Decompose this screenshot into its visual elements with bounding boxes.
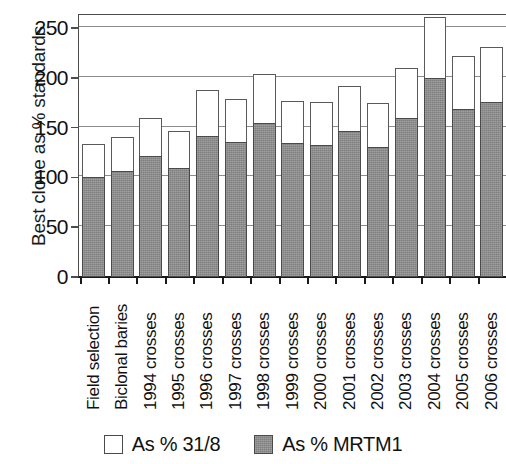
table-row[interactable] bbox=[452, 14, 475, 277]
x-tick bbox=[279, 277, 281, 284]
bar-segment-as-pct-mrtm1[interactable] bbox=[111, 171, 134, 277]
x-tick-label: 2001 crosses bbox=[340, 312, 360, 410]
x-tick-label-wrap: 1995 crosses bbox=[165, 286, 193, 410]
y-tick-label-0: 0 bbox=[0, 265, 68, 289]
x-tick-label: 1995 crosses bbox=[169, 312, 189, 410]
bar-segment-as-pct-mrtm1[interactable] bbox=[367, 147, 390, 277]
x-tick bbox=[392, 277, 394, 284]
table-row[interactable] bbox=[395, 14, 418, 277]
table-row[interactable] bbox=[480, 14, 503, 277]
x-tick-label: 1996 crosses bbox=[197, 312, 217, 410]
x-tick-label-wrap: 2003 crosses bbox=[392, 286, 420, 410]
table-row[interactable] bbox=[281, 14, 304, 277]
y-tick-label-50: 50 bbox=[0, 215, 68, 239]
bar-segment-as-pct-mrtm1[interactable] bbox=[395, 118, 418, 276]
bar-segment-as-pct-mrtm1[interactable] bbox=[253, 123, 276, 276]
bar-segment-as-pct-mrtm1[interactable] bbox=[452, 109, 475, 276]
x-tick-label: Field selection bbox=[84, 306, 104, 410]
table-row[interactable] bbox=[196, 14, 219, 277]
x-tick-label: 2000 crosses bbox=[311, 312, 331, 410]
y-tick-label-100: 100 bbox=[0, 165, 68, 189]
x-tick-label: 2004 crosses bbox=[425, 312, 445, 410]
chart-figure: Best clone as % standards 05010015020025… bbox=[0, 0, 506, 464]
bar-segment-as-pct-mrtm1[interactable] bbox=[338, 131, 361, 276]
x-tick-label-wrap: 2001 crosses bbox=[335, 286, 363, 410]
bar-segment-as-pct-mrtm1[interactable] bbox=[168, 168, 191, 277]
y-tick-label-150: 150 bbox=[0, 116, 68, 140]
y-tick-200 bbox=[71, 77, 78, 79]
x-tick bbox=[449, 277, 451, 284]
y-tick-150 bbox=[71, 127, 78, 129]
legend-item-as-pct-31-8: As % 31/8 bbox=[104, 433, 220, 456]
bar-segment-as-pct-mrtm1[interactable] bbox=[139, 156, 162, 277]
legend-label: As % 31/8 bbox=[132, 433, 220, 456]
x-tick-label-wrap: 2006 crosses bbox=[478, 286, 506, 410]
y-tick-label-200: 200 bbox=[0, 66, 68, 90]
x-tick-label: Biclonal baries bbox=[112, 304, 132, 410]
table-row[interactable] bbox=[168, 14, 191, 277]
x-tick-label: 2003 crosses bbox=[396, 312, 416, 410]
x-tick-label: 2006 crosses bbox=[482, 312, 502, 410]
bar-segment-as-pct-mrtm1[interactable] bbox=[480, 102, 503, 276]
x-tick bbox=[193, 277, 195, 284]
x-tick bbox=[136, 277, 138, 284]
x-tick-label-wrap: Biclonal baries bbox=[108, 286, 136, 410]
x-tick-label: 2005 crosses bbox=[453, 312, 473, 410]
table-row[interactable] bbox=[310, 14, 333, 277]
x-tick bbox=[307, 277, 309, 284]
x-tick-label-wrap: 2002 crosses bbox=[364, 286, 392, 410]
table-row[interactable] bbox=[225, 14, 248, 277]
bar-segment-as-pct-mrtm1[interactable] bbox=[310, 145, 333, 277]
x-tick-label-wrap: Field selection bbox=[80, 286, 108, 410]
legend-label: As % MRTM1 bbox=[282, 433, 402, 456]
bar-segment-as-pct-mrtm1[interactable] bbox=[82, 177, 105, 277]
x-tick-label-wrap: 1999 crosses bbox=[279, 286, 307, 410]
x-tick bbox=[364, 277, 366, 284]
x-tick bbox=[80, 277, 82, 284]
x-tick-label-wrap: 2004 crosses bbox=[421, 286, 449, 410]
x-tick bbox=[222, 277, 224, 284]
x-tick-label-wrap: 2005 crosses bbox=[449, 286, 477, 410]
table-row[interactable] bbox=[111, 14, 134, 277]
y-tick-100 bbox=[71, 177, 78, 179]
table-row[interactable] bbox=[338, 14, 361, 277]
x-tick bbox=[478, 277, 480, 284]
x-tick-label-wrap: 1998 crosses bbox=[250, 286, 278, 410]
bar-segment-as-pct-mrtm1[interactable] bbox=[424, 78, 447, 276]
bar-segment-as-pct-mrtm1[interactable] bbox=[281, 143, 304, 276]
x-axis-tick-labels: Field selectionBiclonal baries1994 cross… bbox=[80, 286, 506, 410]
x-tick bbox=[335, 277, 337, 284]
bar-series-container bbox=[80, 14, 506, 277]
x-tick bbox=[250, 277, 252, 284]
white-square-swatch-icon bbox=[104, 435, 123, 454]
table-row[interactable] bbox=[253, 14, 276, 277]
y-tick-50 bbox=[71, 226, 78, 228]
x-tick-label: 2002 crosses bbox=[368, 312, 388, 410]
x-tick-label-wrap: 1997 crosses bbox=[222, 286, 250, 410]
bar-segment-as-pct-mrtm1[interactable] bbox=[196, 136, 219, 276]
table-row[interactable] bbox=[424, 14, 447, 277]
legend-item-as-pct-mrtm1: As % MRTM1 bbox=[254, 433, 402, 456]
grey-square-swatch-icon bbox=[254, 435, 273, 454]
x-tick-label: 1999 crosses bbox=[283, 312, 303, 410]
y-tick-label-250: 250 bbox=[0, 16, 68, 40]
x-tick-label-wrap: 1996 crosses bbox=[193, 286, 221, 410]
x-tick bbox=[165, 277, 167, 284]
chart-legend: As % 31/8 As % MRTM1 bbox=[0, 428, 506, 460]
table-row[interactable] bbox=[82, 14, 105, 277]
x-tick-label: 1994 crosses bbox=[141, 312, 161, 410]
x-tick-label: 1998 crosses bbox=[254, 312, 274, 410]
bar-segment-as-pct-mrtm1[interactable] bbox=[225, 142, 248, 276]
x-tick-label: 1997 crosses bbox=[226, 312, 246, 410]
table-row[interactable] bbox=[139, 14, 162, 277]
y-tick-0 bbox=[71, 276, 78, 278]
x-tick-label-wrap: 1994 crosses bbox=[136, 286, 164, 410]
x-axis-ticks bbox=[80, 277, 506, 285]
y-tick-250 bbox=[71, 27, 78, 29]
x-tick-label-wrap: 2000 crosses bbox=[307, 286, 335, 410]
table-row[interactable] bbox=[367, 14, 390, 277]
x-tick bbox=[421, 277, 423, 284]
x-tick bbox=[108, 277, 110, 284]
